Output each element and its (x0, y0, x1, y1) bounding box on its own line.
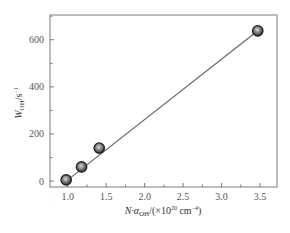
y-tick-label: 0 (39, 176, 44, 187)
y-tick-label: 600 (29, 34, 44, 45)
x-axis-ticks: 1.01.52.02.53.03.5 (61, 183, 266, 202)
y-tick-label: 200 (29, 128, 44, 139)
x-tick-label: 1.0 (61, 191, 74, 202)
chart: 0200400600 1.01.52.02.53.03.5 N·αOH/(×10… (0, 0, 290, 233)
x-tick-label: 2.0 (138, 191, 151, 202)
x-tick-label: 2.5 (177, 191, 190, 202)
data-point (253, 26, 263, 36)
y-tick-label: 400 (29, 81, 44, 92)
fit-line (66, 31, 258, 181)
data-point (61, 175, 71, 185)
x-tick-label: 1.5 (100, 191, 113, 202)
x-axis-label: N·αOH/(×1020 cm−4) (124, 205, 202, 218)
x-tick-label: 3.5 (254, 191, 267, 202)
data-point (94, 143, 104, 153)
x-tick-label: 3.0 (215, 191, 228, 202)
y-axis-label: WOH/s−1 (13, 87, 26, 119)
data-point (76, 162, 86, 172)
plot-frame (50, 15, 277, 187)
